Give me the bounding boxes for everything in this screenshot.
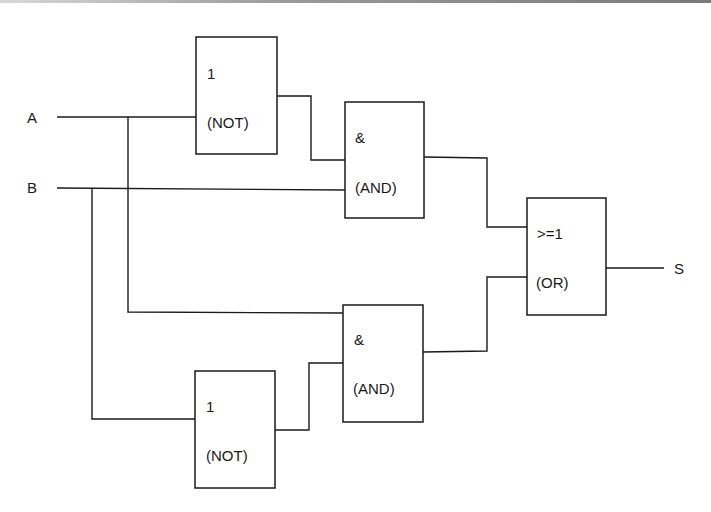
wire-b-to-and1 (57, 188, 345, 190)
output-label-s: S (674, 260, 684, 277)
input-label-b: B (27, 179, 37, 196)
logic-diagram: A B 1 (NOT) & (AND) >=1 (OR) (0, 0, 711, 512)
and-gate-bottom-box (343, 305, 423, 422)
and-gate-bottom-symbol: & (354, 331, 364, 348)
input-label-a: A (27, 109, 37, 126)
or-gate: >=1 (OR) (527, 198, 606, 315)
not-gate-bottom: 1 (NOT) (195, 371, 275, 488)
or-gate-symbol: >=1 (537, 225, 563, 242)
and-gate-top-symbol: & (355, 129, 365, 146)
wire-b-to-not2 (92, 188, 195, 419)
and-gate-top-name: (AND) (355, 179, 397, 196)
not-gate-bottom-name: (NOT) (206, 447, 248, 464)
not-gate-top-symbol: 1 (207, 65, 215, 82)
wire-not2-to-and2 (275, 363, 343, 430)
not-gate-bottom-symbol: 1 (206, 398, 214, 415)
not-gate-bottom-box (195, 371, 275, 488)
and-gate-top-box (345, 102, 424, 218)
not-gate-top-box (196, 37, 277, 154)
or-gate-name: (OR) (536, 274, 569, 291)
and-gate-top: & (AND) (345, 102, 424, 218)
wire-not1-to-and1 (277, 96, 345, 160)
wire-and1-to-or (424, 157, 527, 227)
and-gate-bottom-name: (AND) (353, 380, 395, 397)
wire-and2-to-or (423, 277, 527, 352)
or-gate-box (527, 198, 606, 315)
not-gate-top: 1 (NOT) (196, 37, 277, 154)
and-gate-bottom: & (AND) (343, 305, 423, 422)
not-gate-top-name: (NOT) (207, 114, 249, 131)
